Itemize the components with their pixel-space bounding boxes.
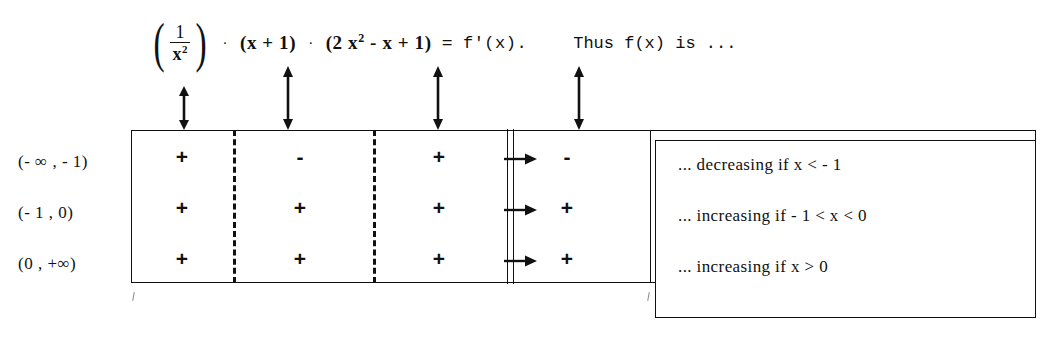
- sign-r3c4: +: [552, 247, 582, 271]
- sign-r1c2: -: [285, 145, 315, 169]
- sign-r1c1: +: [167, 145, 197, 169]
- factor-x-plus-1: (x + 1): [240, 32, 296, 54]
- thus-statement: Thus f(x) is ...: [573, 34, 736, 53]
- column-divider-dashed-2: [373, 130, 376, 283]
- fraction-one-over-x-squared: 1 x2: [169, 23, 191, 64]
- sign-r2c4: +: [552, 196, 582, 220]
- row-result-arrow-2: [504, 203, 540, 217]
- equals-sign: =: [442, 32, 453, 54]
- sign-r3c2: +: [285, 247, 315, 271]
- row-result-arrow-1: [504, 152, 540, 166]
- conclusion-line-1: ... decreasing if x < - 1: [678, 155, 842, 175]
- conclusion-line-3: ... increasing if x > 0: [678, 257, 828, 277]
- factor-quadratic: (2 x2 - x + 1): [326, 31, 432, 54]
- row-result-arrow-3: [504, 254, 540, 268]
- column-divider-dashed-1: [233, 130, 236, 283]
- conclusion-line-2: ... increasing if - 1 < x < 0: [678, 206, 867, 226]
- sign-table: + - + - + + + + + + + +: [131, 130, 650, 283]
- fraction-denominator: x2: [169, 44, 191, 63]
- fraction-numerator: 1: [172, 23, 188, 41]
- sign-r2c3: +: [424, 196, 454, 220]
- row-label-interval-2: (- 1 , 0): [18, 203, 73, 223]
- sign-r1c3: +: [424, 145, 454, 169]
- sign-r2c1: +: [167, 196, 197, 220]
- row-label-interval-1: (- ∞ , - 1): [18, 152, 88, 172]
- scan-artifact-right: [647, 292, 650, 301]
- sign-r3c3: +: [424, 247, 454, 271]
- right-paren: ): [195, 22, 206, 64]
- column-pointer-arrow-2: [280, 66, 296, 130]
- left-paren: (: [154, 22, 165, 64]
- conclusion-box: ... decreasing if x < - 1 ... increasing…: [655, 140, 1036, 318]
- sign-r3c1: +: [167, 247, 197, 271]
- column-pointer-arrow-3: [430, 66, 446, 130]
- sign-r1c4: -: [552, 145, 582, 169]
- fraction-group: ( 1 x2 ): [150, 22, 210, 64]
- multiplication-dot-2: ·: [308, 35, 314, 52]
- derivative-label: f'(x).: [463, 34, 527, 53]
- scan-artifact-left: [132, 292, 135, 301]
- column-pointer-arrow-1: [176, 86, 192, 130]
- column-pointer-arrow-4: [571, 66, 587, 130]
- sign-r2c2: +: [285, 196, 315, 220]
- formula-expression: ( 1 x2 ) · (x + 1) · (2 x2 - x + 1) = f'…: [150, 12, 736, 74]
- multiplication-dot-1: ·: [222, 35, 228, 52]
- row-label-interval-3: (0 , +∞): [18, 254, 76, 274]
